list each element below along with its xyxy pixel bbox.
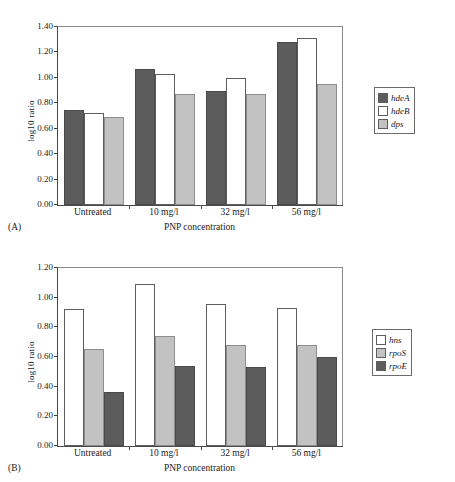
x-axis-labels-b: Untreated10 mg/l32 mg/l56 mg/l	[57, 448, 342, 458]
x-tick-label: Untreated	[57, 207, 128, 217]
bar-group	[58, 27, 129, 205]
plot-area-a	[57, 26, 343, 206]
x-tick-label: 56 mg/l	[271, 448, 342, 458]
bar-rpoS-32-mg-l	[226, 345, 246, 446]
bar-rpoS-10-mg-l	[155, 336, 175, 447]
bar-dps-32-mg-l	[246, 94, 266, 205]
legend-label: hdeA	[391, 93, 410, 103]
legend-swatch-icon	[376, 348, 386, 358]
legend-item: dps	[378, 117, 410, 130]
bar-hdeA-56-mg-l	[277, 42, 297, 205]
bar-group	[272, 27, 343, 205]
legend-label: hdeB	[391, 106, 410, 116]
bar-hdeA-10-mg-l	[135, 69, 155, 205]
y-tick-label: 0.20	[37, 174, 53, 184]
bar-dps-56-mg-l	[317, 84, 337, 205]
y-tick-label: 1.20	[37, 262, 53, 272]
x-tick-label: 10 mg/l	[128, 448, 199, 458]
legend-item: hdeB	[378, 104, 410, 117]
bar-group	[129, 27, 200, 205]
bar-hdeB-32-mg-l	[226, 78, 246, 205]
y-axis-ticks-b: 0.000.200.400.600.801.001.20	[19, 267, 53, 445]
bar-dps-10-mg-l	[175, 94, 195, 205]
x-tick-label: 10 mg/l	[128, 207, 199, 217]
legend-item: hdeA	[378, 91, 410, 104]
bar-hns-10-mg-l	[135, 284, 155, 446]
bar-group	[58, 268, 129, 446]
bar-dps-untreated	[104, 117, 124, 205]
legend-swatch-icon	[378, 119, 388, 129]
legend-label: dps	[391, 119, 404, 129]
x-axis-labels-a: Untreated10 mg/l32 mg/l56 mg/l	[57, 207, 342, 217]
y-tick-label: 0.40	[37, 381, 53, 391]
panel-label-b: (B)	[8, 463, 21, 473]
chart-panel-b: log10 ratio 0.000.200.400.600.801.001.20…	[0, 241, 455, 482]
bar-rpoE-32-mg-l	[246, 367, 266, 446]
bar-rpoS-untreated	[84, 349, 104, 446]
y-tick-label: 0.80	[37, 97, 53, 107]
y-axis-ticks-a: 0.000.200.400.600.801.001.201.40	[19, 26, 53, 204]
x-axis-title-a: PNP concentration	[57, 222, 342, 232]
bar-rpoE-untreated	[104, 392, 124, 446]
x-axis-title-b: PNP concentration	[57, 463, 342, 473]
bar-group	[201, 27, 272, 205]
legend-label: rpoS	[389, 348, 406, 358]
x-tick-label: 32 mg/l	[200, 448, 271, 458]
x-tick-label: 56 mg/l	[271, 207, 342, 217]
y-tick-label: 0.00	[37, 199, 53, 209]
y-tick-label: 1.00	[37, 292, 53, 302]
y-tick-label: 1.40	[37, 21, 53, 31]
bar-hns-32-mg-l	[206, 304, 226, 446]
bar-group	[201, 268, 272, 446]
bar-group	[272, 268, 343, 446]
y-tick-label: 0.40	[37, 148, 53, 158]
bar-groups-a	[58, 27, 343, 205]
y-tick-label: 0.60	[37, 351, 53, 361]
y-tick-label: 0.20	[37, 410, 53, 420]
legend-item: hns	[376, 333, 407, 346]
legend-label: hns	[389, 335, 402, 345]
chart-panel-a: log10 ratio 0.000.200.400.600.801.001.20…	[0, 0, 455, 241]
legend-swatch-icon	[376, 361, 386, 371]
bar-hdeB-10-mg-l	[155, 74, 175, 205]
panel-label-a: (A)	[8, 222, 21, 232]
y-tick-label: 0.00	[37, 440, 53, 450]
bar-group	[129, 268, 200, 446]
y-tick-label: 1.20	[37, 46, 53, 56]
bar-hns-56-mg-l	[277, 308, 297, 446]
bar-hns-untreated	[64, 309, 84, 446]
figure-container: log10 ratio 0.000.200.400.600.801.001.20…	[0, 0, 455, 482]
y-tick-label: 0.80	[37, 321, 53, 331]
legend-swatch-icon	[378, 93, 388, 103]
bar-hdeA-32-mg-l	[206, 91, 226, 205]
legend-b: hnsrpoSrpoE	[372, 329, 412, 376]
legend-a: hdeAhdeBdps	[374, 87, 415, 134]
y-tick-label: 0.60	[37, 123, 53, 133]
legend-swatch-icon	[378, 106, 388, 116]
legend-swatch-icon	[376, 335, 386, 345]
bar-hdeB-untreated	[84, 113, 104, 205]
bar-rpoS-56-mg-l	[297, 345, 317, 446]
legend-item: rpoS	[376, 346, 407, 359]
x-tick-label: 32 mg/l	[200, 207, 271, 217]
plot-area-b	[57, 267, 343, 447]
legend-item: rpoE	[376, 359, 407, 372]
bar-hdeA-untreated	[64, 110, 84, 205]
bar-rpoE-10-mg-l	[175, 366, 195, 446]
legend-label: rpoE	[389, 361, 407, 371]
bar-rpoE-56-mg-l	[317, 357, 337, 446]
x-tick-label: Untreated	[57, 448, 128, 458]
bar-groups-b	[58, 268, 343, 446]
bar-hdeB-56-mg-l	[297, 38, 317, 205]
y-tick-label: 1.00	[37, 72, 53, 82]
